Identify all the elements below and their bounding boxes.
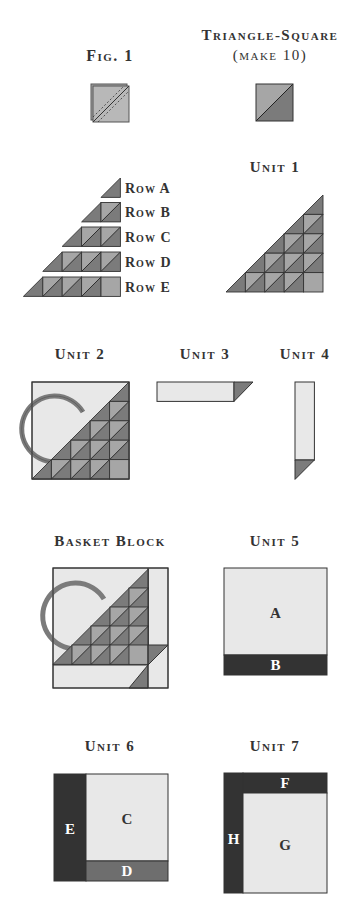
row-e-label: Row E (125, 280, 171, 295)
unit4-diagram (295, 382, 314, 479)
piece-a-label: A (270, 605, 281, 621)
piece-d-label: D (122, 863, 133, 879)
row-a-label: Row A (125, 181, 171, 196)
basket-block-diagram (43, 568, 168, 688)
unit7-diagram (224, 773, 327, 893)
piece-g-label: G (279, 837, 291, 853)
piece-b-label: B (270, 657, 280, 673)
quilt-diagram: Row A Row B Row C Row D Row E (0, 0, 355, 901)
piece-f-label: F (280, 775, 289, 791)
piece-c-label: C (122, 811, 133, 827)
unit2-diagram (22, 382, 129, 479)
piece-h-label: H (228, 831, 240, 847)
rows-diagram (23, 178, 120, 296)
unit1-diagram (226, 195, 323, 292)
fig1-diagram (91, 84, 129, 122)
triangle-square-diagram (256, 84, 293, 121)
row-b-label: Row B (125, 205, 171, 220)
piece-e-label: E (65, 821, 75, 837)
row-c-label: Row C (125, 230, 172, 245)
unit3-diagram (157, 382, 253, 401)
row-d-label: Row D (125, 255, 172, 270)
